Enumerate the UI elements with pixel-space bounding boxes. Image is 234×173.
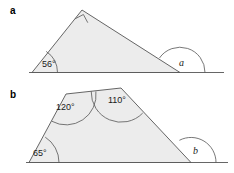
- part-b-label: b: [10, 89, 16, 100]
- geometry-figure: a 56° a b 120° 110° 65° b: [0, 0, 234, 173]
- angle-label-65: 65°: [33, 148, 47, 158]
- angle-label-56: 56°: [42, 59, 56, 69]
- angle-label-a: a: [179, 57, 184, 68]
- angle-label-120: 120°: [56, 102, 75, 112]
- part-a-label: a: [10, 5, 16, 16]
- part-b-group: b 120° 110° 65° b: [10, 88, 228, 163]
- part-a-group: a 56° a: [10, 5, 224, 73]
- angle-label-b: b: [193, 145, 198, 156]
- angle-label-110: 110°: [108, 95, 126, 105]
